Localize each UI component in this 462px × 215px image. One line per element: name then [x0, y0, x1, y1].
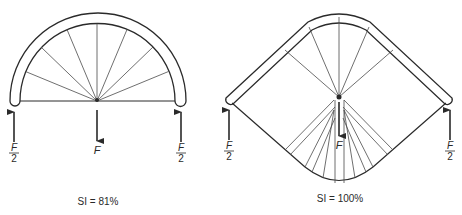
- diamond-arch-figure: F F 2 F 2 SI = 100%: [224, 14, 455, 204]
- right-support-denominator: 2: [447, 151, 453, 162]
- right-support-denominator: 2: [178, 153, 184, 164]
- left-support-denominator: 2: [11, 153, 17, 164]
- left-support-denominator: 2: [226, 151, 232, 162]
- load-label: F: [336, 139, 344, 151]
- figure-caption: SI = 100%: [317, 193, 364, 204]
- hub: [95, 98, 99, 102]
- diagram-canvas: F F 2 F 2 SI = 81%: [0, 0, 462, 215]
- left-support-numerator: F: [226, 140, 233, 151]
- semicircular-arch-figure: F F 2 F 2 SI = 81%: [9, 13, 186, 207]
- arch-tube: [10, 13, 186, 107]
- right-support-numerator: F: [178, 142, 185, 153]
- right-support-numerator: F: [447, 140, 454, 151]
- spokes: [26, 24, 169, 102]
- figure-caption: SI = 81%: [78, 196, 119, 207]
- left-support-numerator: F: [11, 142, 18, 153]
- load-label: F: [94, 144, 102, 156]
- hub: [337, 95, 342, 100]
